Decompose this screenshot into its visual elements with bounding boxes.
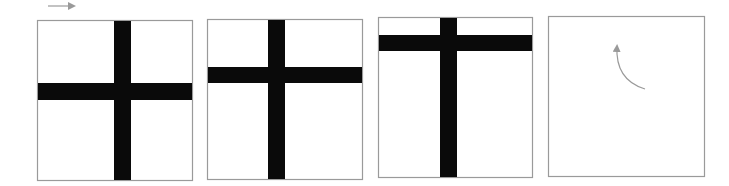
panel-sequence <box>38 17 705 181</box>
panel-3 <box>379 18 533 178</box>
vertical-bar <box>114 21 131 180</box>
horizontal-bar <box>38 83 192 100</box>
panel-4 <box>549 17 705 177</box>
horizontal-bar <box>379 35 532 51</box>
panel-1 <box>38 21 193 181</box>
horizontal-bar <box>208 67 362 83</box>
diagram-canvas <box>0 0 729 186</box>
panel-border <box>549 17 705 177</box>
vertical-bar <box>268 20 285 179</box>
panel-2 <box>208 20 363 180</box>
